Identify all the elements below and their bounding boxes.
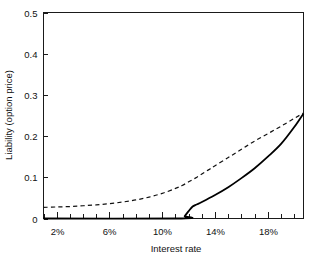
- x-axis-title: Interest rate: [151, 243, 202, 254]
- axis-spine-left-top: [44, 13, 304, 219]
- x-tick-label: 14%: [206, 226, 226, 237]
- chart-figure: 00.10.20.30.40.5 2%6%10%14%18% Interest …: [0, 0, 313, 267]
- series-intrinsic-value-solid: [44, 113, 304, 218]
- y-tick-label: 0.4: [24, 49, 37, 60]
- y-axis-title: Liability (option price): [3, 70, 14, 160]
- y-tick-label: 0: [32, 214, 37, 225]
- x-tick-label: 6%: [103, 226, 117, 237]
- x-tick-label: 18%: [259, 226, 279, 237]
- y-tick-label: 0.2: [24, 131, 37, 142]
- y-tick-label: 0.5: [24, 8, 37, 19]
- x-tick-label: 2%: [51, 226, 65, 237]
- x-tick-label: 10%: [153, 226, 173, 237]
- x-axis-ticks: [45, 212, 295, 219]
- y-axis-tick-labels: 00.10.20.30.40.5: [24, 8, 37, 225]
- chart-svg: 00.10.20.30.40.5 2%6%10%14%18% Interest …: [0, 0, 313, 267]
- x-axis-tick-labels: 2%6%10%14%18%: [51, 226, 279, 237]
- y-tick-label: 0.3: [24, 90, 37, 101]
- y-tick-label: 0.1: [24, 172, 37, 183]
- y-axis-ticks: [44, 14, 49, 220]
